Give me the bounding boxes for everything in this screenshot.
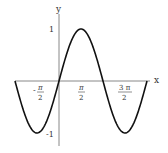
tick-numerator: π (78, 84, 84, 92)
y-tick-neg1: -1 (46, 130, 54, 139)
x-tick-pi-half: π 2 (78, 84, 85, 102)
x-tick-neg-pi-half: - π 2 (33, 84, 44, 102)
x-axis-label: x (154, 75, 159, 85)
tick-numerator: π (37, 84, 43, 92)
y-tick-1: 1 (49, 25, 54, 34)
tick-sign: - (33, 86, 36, 95)
tick-denominator: 2 (79, 94, 83, 102)
tick-denominator: 2 (38, 94, 42, 102)
sine-plot: x y 1 -1 - π 2 π 2 3 π 2 (0, 0, 168, 153)
tick-denominator: 2 (122, 94, 126, 102)
y-axis-label: y (55, 4, 62, 14)
tick-numerator: 3 π (119, 84, 131, 92)
x-tick-three-pi-half: 3 π 2 (118, 84, 132, 102)
